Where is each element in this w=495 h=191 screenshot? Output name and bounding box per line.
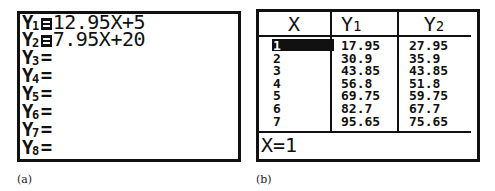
y1-column: 17.95 30.9 43.85 56.8 69.75 82.7 95.65 [341,40,380,128]
y-equals-editor-screen: Y112.95X+5 Y27.95X+20 Y3= Y4= Y5= Y6= Y7… [17,11,241,162]
function-expression[interactable]: 7.95X+20 [53,27,145,51]
function-subscript: 8 [32,144,39,158]
column-header-y2: Y2 [399,12,469,35]
table-cell-x[interactable]: 1 [273,40,281,53]
column-divider [330,12,332,131]
status-line: X=1 [261,133,297,157]
column-header-y1: Y1 [331,12,395,35]
header-divider [259,35,471,37]
table-cell-y2[interactable]: 75.65 [409,116,448,129]
column-header-x: X [259,12,329,35]
caption-b: (b) [256,173,272,186]
x-column: 1 2 3 4 5 6 7 [273,40,281,128]
table-screen: X Y1 Y2 1 2 3 4 5 6 7 17.95 30.9 43.85 5… [256,9,480,162]
table-cell-y1[interactable]: 95.65 [341,116,380,129]
selected-equals-icon[interactable] [41,18,52,30]
table-cell-x[interactable]: 7 [273,116,281,129]
y2-column: 27.95 35.9 43.85 51.8 59.75 67.7 75.65 [409,40,448,128]
column-divider [397,12,399,131]
function-y8-row[interactable]: Y8= [22,139,52,156]
cell-cursor-highlight[interactable] [272,39,334,51]
equals-sign[interactable]: = [41,136,52,158]
caption-a: (a) [17,173,32,186]
